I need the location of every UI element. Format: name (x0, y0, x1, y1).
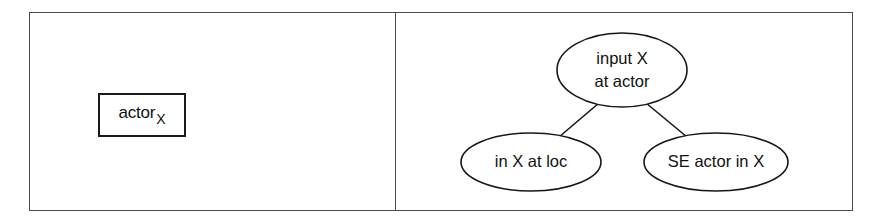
right-panel: input X at actor in X at loc SE actor in… (396, 13, 853, 210)
node-in-x-at-loc: in X at loc (461, 133, 601, 191)
actor-box-label: actorX (118, 104, 165, 126)
node-root-line-2: at actor (594, 72, 650, 90)
actor-box-base-text: actor (118, 103, 155, 122)
actor-box: actorX (98, 93, 186, 137)
node-root-ellipse (557, 33, 687, 107)
concept-graph: input X at actor in X at loc SE actor in… (396, 13, 853, 210)
node-input-x-at-actor: input X at actor (557, 33, 687, 107)
figure-canvas: actorX input X at actor in X at loc SE a (0, 0, 884, 219)
left-panel: actorX (30, 13, 395, 210)
node-root-line-1: input X (596, 49, 647, 67)
node-se-actor-in-x: SE actor in X (644, 133, 788, 191)
node-right-child-label: SE actor in X (668, 152, 764, 170)
node-left-child-label: in X at loc (495, 152, 567, 170)
actor-box-subscript-text: X (156, 111, 165, 127)
edge-root-to-right-child (646, 103, 687, 137)
edge-root-to-left-child (559, 103, 599, 137)
